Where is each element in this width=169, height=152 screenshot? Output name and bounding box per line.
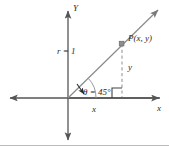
point-p-marker [119, 41, 124, 46]
point-p-label: P(x, y) [128, 34, 152, 43]
vertical-leg-label: y [128, 63, 132, 72]
terminal-ray [68, 10, 158, 98]
radius-label: r = 1 [57, 47, 76, 56]
y-axis-label: Y [73, 4, 78, 13]
angle-label: θ = 45° [83, 88, 111, 97]
right-angle-marker [112, 88, 122, 98]
figure-canvas [0, 0, 169, 152]
horizontal-leg-label: x [92, 105, 96, 114]
x-axis-label: x [157, 104, 161, 113]
trigonometry-unit-circle-figure: Y x r = 1 θ = 45° P(x, y) y x [0, 0, 169, 152]
